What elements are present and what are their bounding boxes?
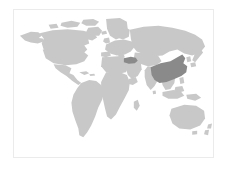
map-frame — [13, 9, 214, 158]
region-sri-lanka — [153, 90, 156, 94]
world-map-svg — [14, 10, 213, 157]
world-map-figure — [0, 0, 227, 169]
region-tasmania — [192, 131, 197, 135]
